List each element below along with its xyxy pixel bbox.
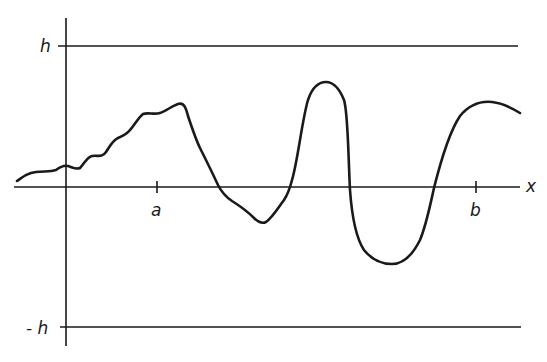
function-curve xyxy=(17,82,520,264)
x-axis-label: x xyxy=(525,176,537,196)
upper-bound-label: h xyxy=(40,36,51,56)
lower-bound-label: - h xyxy=(26,318,48,338)
tick-b-label: b xyxy=(470,200,481,220)
tick-a-label: a xyxy=(151,200,161,220)
function-diagram: h - h x a b xyxy=(0,0,547,362)
